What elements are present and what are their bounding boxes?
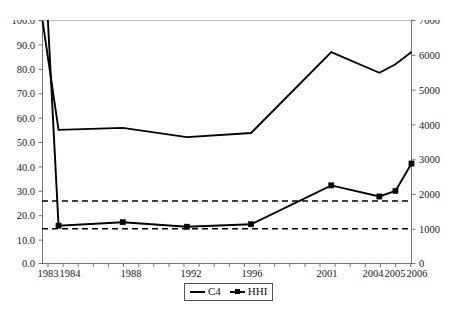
left-tick-label: 80.0 — [17, 64, 35, 75]
left-tick-label: 50.0 — [17, 137, 35, 148]
right-tick-label: 2000 — [419, 189, 440, 200]
right-axis-ticks — [412, 21, 416, 264]
x-tick-label: 2004 — [363, 268, 385, 279]
left-axis-ticks — [39, 21, 43, 264]
left-tick-label: 70.0 — [17, 88, 35, 99]
legend-label-hhi: HHI — [248, 285, 268, 298]
x-tick-label: 2001 — [317, 268, 338, 279]
legend-entry-hhi: HHI — [230, 285, 268, 298]
left-tick-label: 90.0 — [17, 40, 35, 51]
data-point-marker — [120, 220, 125, 225]
x-tick-label: 1983 — [38, 268, 59, 279]
right-tick-label: 6000 — [419, 50, 440, 61]
left-tick-label: 40.0 — [17, 162, 35, 173]
x-tick-label: 1988 — [121, 268, 142, 279]
x-tick-label: 2005 — [385, 268, 406, 279]
data-point-marker — [329, 183, 334, 188]
left-tick-label: 60.0 — [17, 113, 35, 124]
data-point-marker — [56, 223, 61, 228]
legend-label-c4: C4 — [208, 285, 221, 298]
legend-line-icon-c4 — [190, 287, 205, 296]
line-chart: 100.0 90.0 80.0 70.0 60.0 50.0 40.0 30.0… — [0, 0, 450, 317]
data-point-marker — [184, 224, 189, 229]
left-tick-label: 10.0 — [17, 235, 35, 246]
right-tick-label: 3000 — [419, 154, 440, 165]
right-tick-label: 4000 — [419, 120, 440, 131]
legend-line-marker-icon-hhi — [230, 287, 245, 296]
plot-background — [42, 20, 412, 264]
chart-container: 100.0 90.0 80.0 70.0 60.0 50.0 40.0 30.0… — [0, 0, 450, 317]
x-tick-label: 1996 — [242, 268, 263, 279]
right-tick-label: 1000 — [419, 224, 440, 235]
x-axis-ticks — [48, 264, 411, 268]
x-tick-label: 1984 — [60, 268, 82, 279]
data-point-marker — [248, 222, 253, 227]
left-tick-label: 30.0 — [17, 186, 35, 197]
data-point-marker — [393, 188, 398, 193]
data-point-marker — [409, 161, 414, 166]
x-axis-tick-labels: 1983 1984 1988 1992 1996 2001 2004 2005 … — [38, 268, 428, 279]
legend-entry-c4: C4 — [190, 285, 221, 298]
top-clip-mask — [0, 0, 450, 20]
left-tick-label: 0.0 — [22, 258, 35, 269]
x-tick-label: 2006 — [407, 268, 428, 279]
right-tick-label: 5000 — [419, 85, 440, 96]
chart-legend: C4 HHI — [184, 283, 273, 301]
left-axis-tick-labels: 100.0 90.0 80.0 70.0 60.0 50.0 40.0 30.0… — [11, 15, 35, 269]
left-tick-label: 20.0 — [17, 210, 35, 221]
data-point-marker — [377, 194, 382, 199]
right-axis-tick-labels: 7000 6000 5000 4000 3000 2000 1000 0 — [419, 15, 440, 269]
x-tick-label: 1992 — [181, 268, 202, 279]
